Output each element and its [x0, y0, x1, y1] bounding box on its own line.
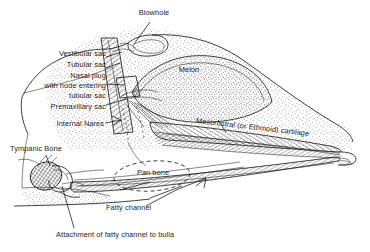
label-nasal-plug-line1: Nasal plug [16, 72, 106, 81]
label-fatty-channel: Fatty channel [106, 204, 151, 213]
label-nasal-plug-line2: with node entering [6, 82, 106, 91]
anatomy-diagram: Blowhole Vestibular sac Tubular sac Nasa… [0, 0, 370, 252]
label-tubular-sac: Tubular sac [16, 61, 106, 70]
label-blowhole: Blowhole [120, 9, 188, 18]
lower-jaw-mandible [60, 150, 352, 198]
label-premaxillary-sac: Premaxillary sac [16, 103, 106, 112]
label-vestibular-sac: Vestibular sac [16, 50, 106, 59]
label-pan-bone: Pan bone [126, 169, 180, 178]
label-tympanic-bone: Tympanic Bone [10, 145, 62, 154]
label-nasal-plug-line3: tubular sac [16, 92, 106, 101]
label-internal-nares: Internal Nares [16, 120, 104, 129]
label-melon: Melon [166, 66, 212, 75]
label-attachment-fatty-channel-bulla: Attachment of fatty channel to bulla [56, 231, 174, 240]
